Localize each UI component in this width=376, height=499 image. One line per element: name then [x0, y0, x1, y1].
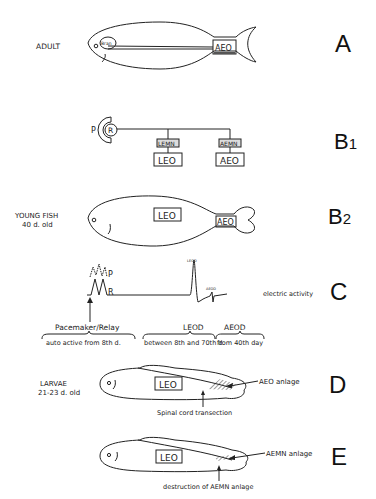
panel-letter-a: A [335, 30, 351, 57]
group-note-leod: between 8th and 70th d. [144, 339, 225, 347]
brain-label: Bran [101, 41, 112, 46]
pacemaker-label: P [91, 126, 96, 135]
arrow-head-icon [87, 297, 93, 303]
arrow-head-icon [217, 465, 221, 470]
stage-label-larvae: LARVAE [40, 380, 67, 388]
leo-label: LEO [158, 211, 176, 221]
relay-axons [117, 129, 230, 139]
aeo-anlage-label: AEO anlage [259, 378, 300, 386]
gill-line [113, 380, 115, 389]
aemn-label: AEMN [220, 140, 238, 147]
eye-icon [107, 453, 110, 456]
panel-b2: YOUNG FISH 40 d. old LEO AEO B2 [14, 196, 351, 246]
arrow-head-icon [201, 390, 205, 395]
aemn-anlage-label: AEMN anlage [266, 450, 312, 458]
group-note-pacemaker-relay: auto active from 8th d. [46, 339, 121, 347]
relay-trace-label: R [108, 288, 114, 297]
group-title-leod: LEOD [183, 323, 204, 332]
age-label-40d: 40 d. old [22, 221, 53, 229]
pacemaker-trace [90, 264, 107, 277]
panel-e: LEO AEMN anlage destruction of AEMN anla… [100, 437, 347, 491]
panel-letter-b2: B2 [328, 204, 351, 229]
leo-label: LEO [159, 380, 177, 390]
age-label-21-23d: 21-23 d. old [38, 389, 80, 397]
panel-a: ADULT Bran AEO A [36, 22, 351, 69]
eye-icon [94, 44, 98, 48]
panel-letter-b1: B1 [334, 129, 357, 154]
electric-activity-label: electric activity [263, 290, 313, 298]
pacemaker-trace-label: P [108, 270, 113, 279]
gill-line [108, 224, 110, 234]
brace-pacemaker-relay [42, 331, 135, 339]
panel-letter-e: E [331, 443, 347, 470]
panel-d: LARVAE 21-23 d. old LEO AEO anlage Spina… [38, 365, 346, 417]
organ-label-aeo: AEO [215, 44, 232, 53]
brace-aeod [216, 331, 264, 339]
panel-letter-d: D [329, 371, 346, 398]
aeod-peak-label: AEOD [206, 287, 216, 291]
brace-leod [143, 331, 215, 339]
group-title-pacemaker-relay: Pacemaker/Relay [55, 323, 120, 332]
group-note-aeod: from 40th day [217, 339, 263, 347]
panel-c: P R LEOD AEOD electric activity C Pacema… [42, 259, 347, 347]
lemn-label: LEMN [158, 140, 175, 147]
destruction-label: destruction of AEMN anlage [163, 483, 253, 491]
panel-letter-c: C [330, 278, 347, 305]
spinal-cord [108, 46, 213, 49]
leo-label: LEO [160, 453, 178, 463]
eye-icon [107, 381, 110, 384]
aeo-label: AEO [220, 156, 239, 166]
group-title-aeod: AEOD [224, 323, 246, 332]
leo-label: LEO [158, 156, 176, 166]
eye-icon [92, 218, 96, 222]
stage-label-adult: ADULT [36, 42, 61, 51]
spinal-cord-transection-label: Spinal cord transection [157, 409, 232, 417]
fin-fold-line [138, 440, 232, 460]
leod-peak-label: LEOD [187, 259, 197, 263]
motor-axons [168, 147, 230, 153]
stage-label-young-fish: YOUNG FISH [14, 212, 58, 220]
relay-label: R [108, 126, 113, 135]
anlage-pointer [232, 453, 265, 458]
developmental-diagram: ADULT Bran AEO A P R LEMN AEMN LEO AEO B… [0, 0, 376, 499]
gill-line [115, 452, 117, 461]
aeo-label: AEO [217, 218, 234, 227]
panel-b1: P R LEMN AEMN LEO AEO B1 [91, 117, 357, 166]
